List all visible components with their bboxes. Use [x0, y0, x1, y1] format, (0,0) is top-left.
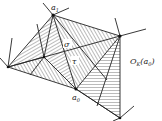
- label-a1: a1: [51, 3, 59, 13]
- vertex-bottom: [119, 117, 122, 120]
- vertex-a0: [74, 87, 77, 90]
- vertex-inner: [43, 56, 45, 58]
- vertex-a1: [51, 13, 54, 16]
- vertex-right: [118, 34, 121, 37]
- label-a0: a0: [72, 93, 81, 103]
- label-tau: τ: [72, 57, 77, 66]
- vertex-left: [7, 66, 10, 69]
- simplicial-complex-diagram: a1 σ τ a0 OK(a0): [0, 0, 162, 121]
- label-sigma: σ: [64, 40, 70, 49]
- label-neighborhood: OK(a0): [130, 57, 155, 67]
